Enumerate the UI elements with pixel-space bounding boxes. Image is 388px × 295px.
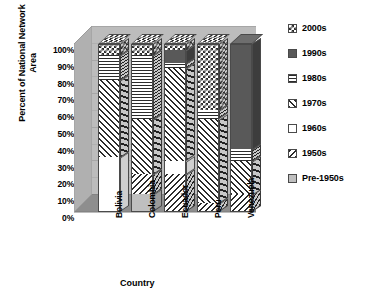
- segment-ecuador-1970s: [165, 68, 185, 160]
- y-tick-30: 30%: [58, 164, 74, 173]
- x-tick-ecuador: Ecuador: [180, 185, 190, 218]
- segment-side: [219, 114, 228, 204]
- x-tick-colombia: Colombia: [147, 180, 157, 218]
- y-tick-80: 80%: [58, 80, 74, 89]
- segment-colombia-2000s: [132, 44, 152, 55]
- legend-swatch-2000s: [288, 24, 297, 33]
- legend-swatch-1950s: [288, 149, 297, 158]
- segment-ecuador-1960s: [165, 161, 185, 174]
- legend-label: 2000s: [302, 23, 327, 33]
- segment-peru-2000s: [198, 44, 218, 110]
- chart-container: Percent of National Network Area 0%10%20…: [0, 0, 388, 295]
- segment-colombia-1980s: [132, 55, 152, 119]
- x-tick-peru: Peru: [213, 200, 223, 219]
- y-tick-50: 50%: [58, 130, 74, 139]
- legend-swatch-pre-1950s: [288, 174, 297, 183]
- y-tick-20: 20%: [58, 180, 74, 189]
- y-axis-title-line1: Percent of National Network: [17, 4, 27, 121]
- segment-venezuela-1990s: [231, 44, 251, 149]
- segment-side: [120, 75, 129, 158]
- segment-bolivia-2000s: [99, 44, 119, 55]
- segment-side: [153, 114, 162, 176]
- legend-item-1980s[interactable]: 1980s: [288, 72, 327, 84]
- legend-label: 1950s: [302, 148, 327, 158]
- y-tick-40: 40%: [58, 147, 74, 156]
- y-axis-tick-labels: 0%10%20%30%40%50%60%70%80%90%100%: [34, 38, 74, 218]
- gridline-100: [92, 26, 256, 27]
- y-tick-10: 10%: [58, 197, 74, 206]
- legend-label: 1970s: [302, 98, 327, 108]
- legend-label: 1960s: [302, 123, 327, 133]
- legend-swatch-1990s: [288, 49, 297, 58]
- legend-label: Pre-1950s: [302, 173, 344, 183]
- segment-venezuela-1980s: [231, 149, 251, 161]
- segment-side: [252, 38, 261, 150]
- segment-side: [153, 50, 162, 120]
- legend-item-1990s[interactable]: 1990s: [288, 47, 327, 59]
- y-tick-0: 0%: [62, 214, 74, 223]
- segment-ecuador-1980s: [165, 63, 185, 68]
- x-tick-bolivia: Bolivia: [114, 191, 124, 218]
- legend-item-pre-1950s[interactable]: Pre-1950s: [288, 172, 344, 184]
- x-tick-venezuela: Venezuela: [246, 178, 256, 218]
- legend-swatch-1970s: [288, 99, 297, 108]
- plot-area: BoliviaColombiaEcuadorPeruVenezuela: [74, 26, 256, 226]
- legend-item-1960s[interactable]: 1960s: [288, 122, 327, 134]
- legend-item-2000s[interactable]: 2000s: [288, 22, 327, 34]
- segment-bolivia-1980s: [99, 55, 119, 80]
- bar-face: [98, 44, 120, 212]
- x-axis-title: Country: [120, 278, 155, 288]
- y-tick-100: 100%: [53, 46, 74, 55]
- legend-swatch-1980s: [288, 74, 297, 83]
- segment-colombia-1970s: [132, 119, 152, 174]
- segment-bolivia-1970s: [99, 80, 119, 157]
- segment-ecuador-2000s: [165, 44, 185, 50]
- segment-ecuador-1990s: [165, 50, 185, 63]
- segment-side: [186, 63, 195, 161]
- legend-label: 1990s: [302, 48, 327, 58]
- y-tick-70: 70%: [58, 96, 74, 105]
- y-tick-90: 90%: [58, 63, 74, 72]
- segment-side: [219, 38, 228, 111]
- legend-swatch-1960s: [288, 124, 297, 133]
- legend-item-1970s[interactable]: 1970s: [288, 97, 327, 109]
- segment-peru-1970s: [198, 119, 218, 203]
- segment-peru-1980s: [198, 110, 218, 118]
- legend-label: 1980s: [302, 73, 327, 83]
- legend-item-1950s[interactable]: 1950s: [288, 147, 327, 159]
- y-tick-60: 60%: [58, 113, 74, 122]
- bar-face: [197, 44, 219, 212]
